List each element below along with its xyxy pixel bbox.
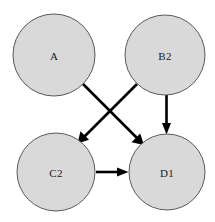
edge-a-to-d1-line: [83, 84, 141, 142]
edge-a-to-d1[interactable]: [83, 84, 144, 145]
graph-svg: A B2 C2 D1: [0, 0, 215, 222]
node-c2[interactable]: C2: [17, 133, 95, 211]
diagram-canvas: A B2 C2 D1: [0, 0, 215, 222]
node-b2[interactable]: B2: [125, 15, 205, 95]
node-d1-label: D1: [160, 167, 174, 179]
edge-b2-to-c2[interactable]: [78, 84, 138, 144]
node-a[interactable]: A: [13, 14, 95, 96]
node-b2-label: B2: [158, 50, 171, 62]
node-c2-label: C2: [49, 167, 62, 179]
edge-c2-to-d1-arrowhead: [117, 168, 129, 177]
node-d1[interactable]: D1: [129, 134, 205, 210]
edge-c2-to-d1[interactable]: [96, 168, 129, 177]
node-a-label: A: [50, 50, 58, 62]
edge-b2-to-c2-line: [81, 84, 137, 140]
edge-b2-to-d1[interactable]: [162, 95, 171, 135]
edge-b2-to-d1-arrowhead: [162, 123, 171, 135]
